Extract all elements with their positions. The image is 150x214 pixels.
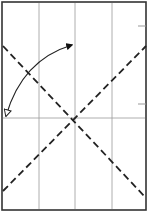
paper-sheet — [2, 2, 146, 210]
fold-diagram — [0, 0, 150, 214]
